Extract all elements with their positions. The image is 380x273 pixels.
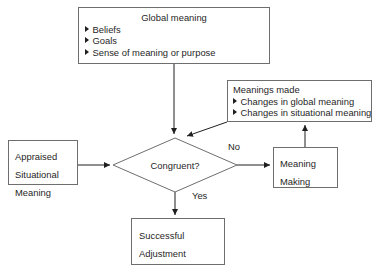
list-item: Beliefs [85, 24, 263, 36]
bullet-label: Changes in situational meaning [241, 107, 372, 118]
node-line: Making [280, 176, 310, 187]
node-successful-adjustment: Successful Adjustment [131, 218, 225, 265]
edge-meanings-made-to-diamond [187, 122, 227, 136]
node-line: Situational [15, 169, 59, 180]
list-item: Changes in global meaning [233, 96, 366, 108]
node-meanings-made-bullets: Changes in global meaning Changes in sit… [233, 96, 366, 119]
triangle-bullet-icon [233, 109, 237, 115]
bullet-label: Beliefs [93, 24, 121, 35]
bullet-label: Changes in global meaning [241, 96, 355, 107]
node-line: Successful [139, 230, 184, 241]
list-item: Sense of meaning or purpose [85, 47, 263, 59]
node-meanings-made-title: Meanings made [233, 84, 366, 96]
edge-label-no: No [228, 141, 240, 152]
bullet-label: Sense of meaning or purpose [93, 47, 216, 58]
node-meanings-made: Meanings made Changes in global meaning … [227, 80, 372, 122]
flowchart-canvas: Global meaning Beliefs Goals Sense of me… [0, 0, 380, 273]
triangle-bullet-icon [85, 26, 89, 32]
triangle-bullet-icon [85, 37, 89, 43]
node-meaning-making: Meaning Making [273, 147, 338, 188]
edge-label-yes: Yes [192, 190, 207, 201]
triangle-bullet-icon [233, 98, 237, 104]
decision-label: Congruent? [113, 138, 237, 192]
list-item: Changes in situational meaning [233, 107, 366, 119]
node-global-meaning-bullets: Beliefs Goals Sense of meaning or purpos… [85, 24, 263, 59]
node-line: Adjustment [139, 248, 186, 259]
node-line: Meaning [280, 158, 316, 169]
node-decision-congruent: Congruent? [113, 138, 237, 192]
node-global-meaning-title: Global meaning [85, 12, 263, 24]
bullet-label: Goals [93, 35, 118, 46]
node-global-meaning: Global meaning Beliefs Goals Sense of me… [78, 7, 270, 64]
node-appraised-situational-meaning: Appraised Situational Meaning [8, 140, 78, 185]
triangle-bullet-icon [85, 49, 89, 55]
node-line: Meaning [15, 187, 51, 198]
list-item: Goals [85, 35, 263, 47]
node-line: Appraised [15, 151, 57, 162]
